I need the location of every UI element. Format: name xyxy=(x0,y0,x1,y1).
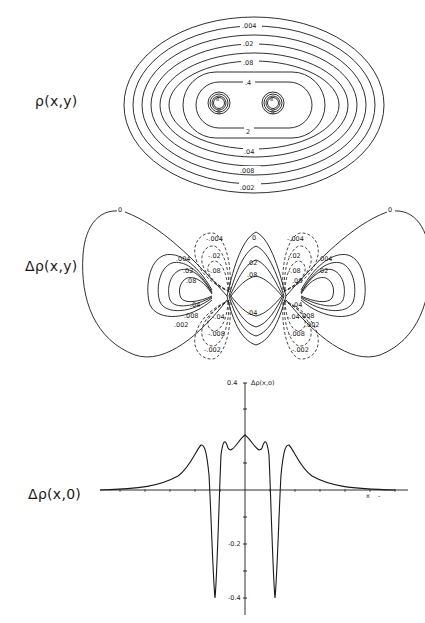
x-axis-title: x xyxy=(366,492,370,500)
ytick-label: -0.4 xyxy=(228,594,241,602)
ytick-label: 0.4 xyxy=(227,379,237,387)
y-axis-title: Δρ(x,o) xyxy=(251,379,275,387)
x-axis-dash: - xyxy=(378,492,381,500)
ytick-label: -0.2 xyxy=(228,540,241,548)
delta-rho-curve xyxy=(100,435,395,598)
delta-rho-x0-line-plot: 0.4 Δρ(x,o) -0.2 -0.4 x - xyxy=(0,0,425,623)
